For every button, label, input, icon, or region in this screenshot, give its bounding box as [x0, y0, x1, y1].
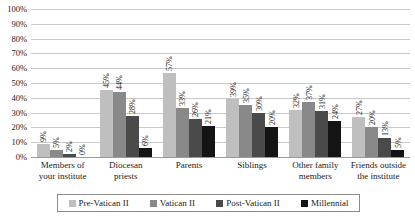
x-axis-category-line: members [285, 171, 346, 182]
legend-color-swatch [216, 200, 223, 207]
bar[interactable]: 26% [189, 119, 202, 157]
bar[interactable]: 30% [252, 113, 265, 157]
legend-label: Vatican II [160, 199, 195, 208]
bar-value-label: 24% [331, 105, 339, 120]
plot-area: 9%5%2%0%45%44%28%6%57%33%26%21%39%35%30%… [31, 9, 410, 157]
bar-slot: 32% [289, 9, 302, 157]
x-axis-category-label: Diocesanpriests [94, 160, 157, 190]
legend-item[interactable]: Vatican II [150, 199, 195, 208]
bar-value-label: 21% [205, 109, 213, 124]
x-axis-category-line: Diocesan [95, 160, 156, 171]
bar-value-label: 32% [292, 93, 300, 108]
bar[interactable]: 27% [352, 117, 365, 157]
bar[interactable]: 13% [378, 138, 391, 157]
bar[interactable]: 20% [365, 127, 378, 157]
x-axis-category-line: Other family [285, 160, 346, 171]
legend-item[interactable]: Post-Vatican II [216, 199, 280, 208]
bar[interactable]: 35% [239, 105, 252, 157]
bar[interactable]: 9% [37, 144, 50, 157]
y-axis-tick-label: 20% [11, 123, 27, 132]
bar[interactable]: 6% [139, 148, 152, 157]
legend-color-swatch [301, 200, 308, 207]
legend-item[interactable]: Pre-Vatican II [69, 199, 129, 208]
x-axis-category-label: Parents [157, 160, 220, 190]
bar-slot: 26% [189, 9, 202, 157]
y-axis-tick-label: 90% [11, 20, 27, 29]
bar-value-label: 20% [368, 111, 376, 126]
legend-label: Pre-Vatican II [79, 199, 129, 208]
bar-value-label: 2% [66, 141, 74, 152]
bar-slot: 9% [37, 9, 50, 157]
y-axis-tick-label: 10% [11, 138, 27, 147]
y-axis-tick-label: 80% [11, 34, 27, 43]
x-axis: Members ofyour instituteDiocesanpriestsP… [31, 160, 410, 190]
bar-group: 39%35%30%20% [221, 9, 284, 157]
x-axis-category-line: priests [95, 171, 156, 182]
bar-slot: 31% [315, 9, 328, 157]
x-axis-category-line: Parents [158, 160, 219, 171]
bar[interactable]: 31% [315, 111, 328, 157]
bar-slot: 28% [126, 9, 139, 157]
bar-slot: 39% [226, 9, 239, 157]
bar-group: 32%37%31%24% [284, 9, 347, 157]
x-axis-category-line: the institute [348, 171, 409, 182]
legend-color-swatch [150, 200, 157, 207]
bar-slot: 2% [63, 9, 76, 157]
bar[interactable]: 2% [63, 154, 76, 157]
bar-value-label: 31% [318, 94, 326, 109]
bar-value-label: 20% [268, 111, 276, 126]
bar[interactable]: 21% [202, 126, 215, 157]
bar-value-label: 35% [242, 89, 250, 104]
bar[interactable]: 45% [100, 90, 113, 157]
bar[interactable]: 37% [302, 102, 315, 157]
bar-slot: 45% [100, 9, 113, 157]
legend-label: Post-Vatican II [226, 199, 280, 208]
legend-item[interactable]: Millennial [301, 199, 349, 208]
bar[interactable]: 57% [163, 73, 176, 157]
bar-slot: 20% [265, 9, 278, 157]
bar-slot: 24% [328, 9, 341, 157]
bar-value-label: 26% [192, 102, 200, 117]
bar[interactable]: 39% [226, 99, 239, 157]
bar[interactable]: 33% [176, 108, 189, 157]
y-axis-tick-label: 60% [11, 64, 27, 73]
bar[interactable]: 20% [265, 127, 278, 157]
bar-slot: 5% [50, 9, 63, 157]
bar-value-label: 39% [229, 83, 237, 98]
bar[interactable]: 44% [113, 92, 126, 157]
bar-value-label: 45% [103, 74, 111, 89]
bar[interactable]: 5% [391, 150, 404, 157]
bar-slot: 20% [365, 9, 378, 157]
x-axis-category-label: Other familymembers [284, 160, 347, 190]
bar-value-label: 44% [116, 75, 124, 90]
bar[interactable]: 5% [50, 150, 63, 157]
bar-slot: 44% [113, 9, 126, 157]
bar[interactable]: 28% [126, 116, 139, 157]
bar-value-label: 33% [179, 92, 187, 107]
bar-slot: 27% [352, 9, 365, 157]
bar-value-label: 57% [166, 56, 174, 71]
bar-slot: 0% [76, 9, 89, 157]
bar-groups: 9%5%2%0%45%44%28%6%57%33%26%21%39%35%30%… [31, 9, 410, 157]
bar[interactable]: 32% [289, 110, 302, 157]
bar-value-label: 30% [255, 96, 263, 111]
bar-slot: 57% [163, 9, 176, 157]
axis-baseline [31, 157, 410, 158]
bar-group: 57%33%26%21% [157, 9, 220, 157]
bar-value-label: 5% [394, 137, 402, 148]
bar-slot: 21% [202, 9, 215, 157]
bar-value-label: 37% [305, 86, 313, 101]
bar-value-label: 6% [142, 135, 150, 146]
y-axis-tick-label: 0% [16, 153, 27, 162]
y-axis-tick-label: 100% [7, 5, 27, 14]
bar[interactable]: 24% [328, 121, 341, 157]
x-axis-category-line: Friends outside [348, 160, 409, 171]
bar-group: 45%44%28%6% [94, 9, 157, 157]
legend-label: Millennial [311, 199, 349, 208]
bar-value-label: 27% [355, 100, 363, 115]
y-axis-tick-label: 50% [11, 79, 27, 88]
bar-group: 27%20%13%5% [347, 9, 410, 157]
x-axis-category-label: Siblings [221, 160, 284, 190]
bar-chart: 100%90%80%70%60%50%40%30%20%10%0% 9%5%2%… [0, 0, 415, 221]
bar-value-label: 28% [129, 99, 137, 114]
